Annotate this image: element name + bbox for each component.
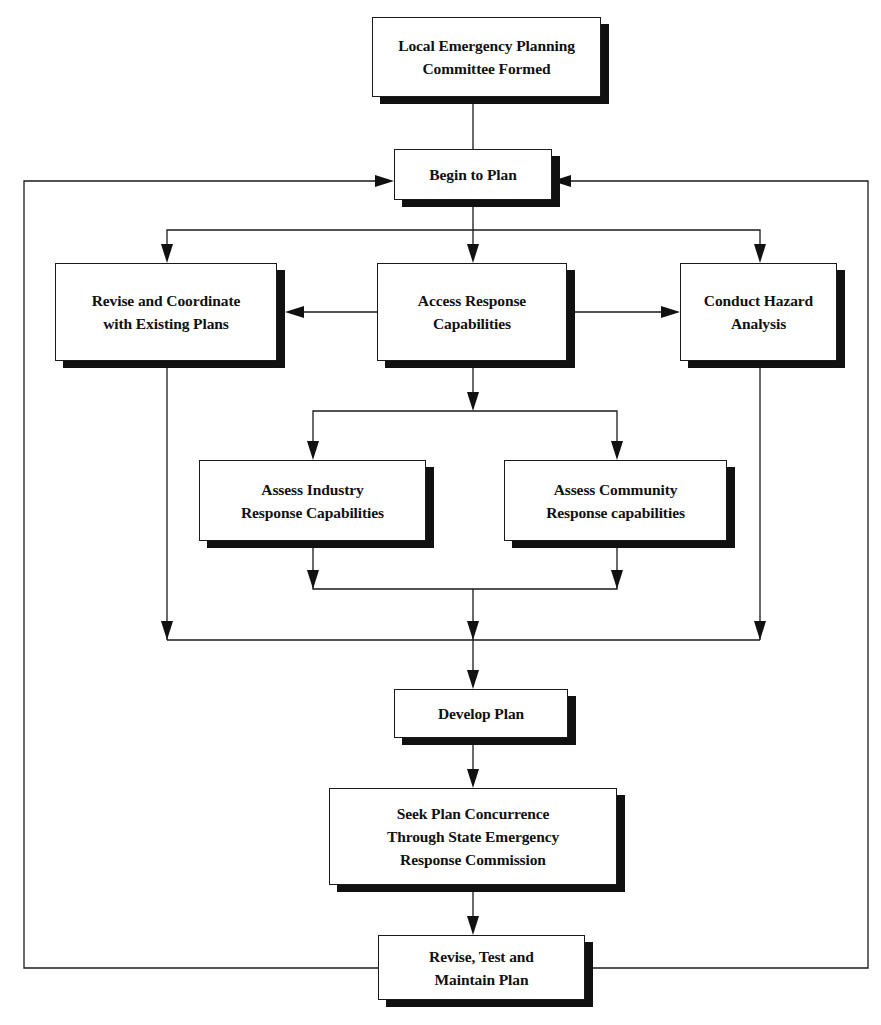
node-label: Local Emergency Planning Committee Forme…: [398, 34, 575, 80]
node-label: Assess Industry Response Capabilities: [241, 478, 384, 524]
arrowhead-center-merge: [467, 621, 479, 640]
flowchart-canvas: Local Emergency Planning Committee Forme…: [0, 0, 881, 1025]
node-revise-coordinate: Revise and Coordinate with Existing Plan…: [55, 263, 277, 361]
node-label: Revise and Coordinate with Existing Plan…: [92, 289, 241, 335]
node-assess-industry: Assess Industry Response Capabilities: [199, 460, 426, 541]
arrowhead-access-top: [467, 244, 479, 263]
node-label: Develop Plan: [438, 702, 524, 725]
arrowhead-subbranch: [467, 392, 479, 411]
arrowhead-seek-top: [467, 769, 479, 788]
node-label: Conduct Hazard Analysis: [704, 289, 813, 335]
node-develop-plan: Develop Plan: [394, 689, 568, 738]
edge-branch-bar: [167, 230, 760, 255]
arrowhead-community-bottom: [611, 570, 623, 589]
node-label: Begin to Plan: [429, 163, 516, 186]
arrowhead-community-top: [611, 441, 623, 460]
node-label: Revise, Test and Maintain Plan: [429, 945, 534, 991]
node-label: Access Response Capabilities: [418, 289, 526, 335]
node-revise-test-maintain: Revise, Test and Maintain Plan: [378, 935, 585, 1000]
node-begin-plan: Begin to Plan: [394, 149, 552, 200]
node-label: Assess Community Response capabilities: [546, 478, 685, 524]
node-seek-concurrence: Seek Plan Concurrence Through State Emer…: [329, 788, 617, 885]
arrowhead-revise-coordinate-right: [285, 306, 304, 318]
arrowhead-hazard-left: [661, 306, 680, 318]
arrowhead-develop-top: [467, 670, 479, 689]
arrowhead-left-merge: [161, 621, 173, 640]
arrowhead-hazard-top: [754, 244, 766, 263]
node-lepc-formed: Local Emergency Planning Committee Forme…: [372, 17, 601, 97]
edge-subbranch-bar: [313, 411, 617, 452]
node-assess-community: Assess Community Response capabilities: [504, 460, 727, 541]
arrowhead-begin-right: [552, 175, 571, 187]
node-label: Seek Plan Concurrence Through State Emer…: [387, 802, 559, 871]
arrowhead-industry-top: [307, 441, 319, 460]
edge-assess-merge: [313, 548, 617, 589]
arrowhead-revise-test-top: [467, 916, 479, 935]
arrowhead-industry-bottom: [307, 570, 319, 589]
node-conduct-hazard: Conduct Hazard Analysis: [680, 263, 837, 361]
node-access-response: Access Response Capabilities: [377, 263, 567, 361]
arrowhead-revise-coordinate-top: [161, 244, 173, 263]
arrowhead-right-merge: [754, 621, 766, 640]
arrowhead-begin-left: [375, 175, 394, 187]
